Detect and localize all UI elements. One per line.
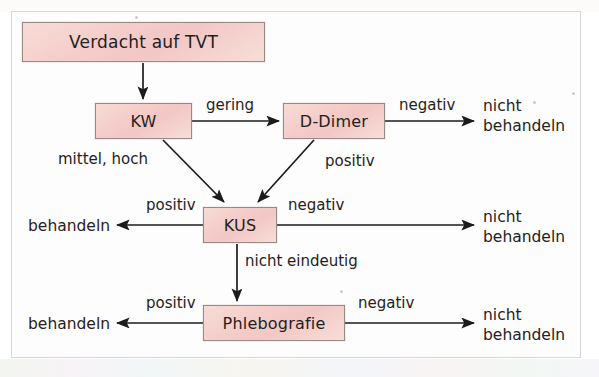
node-phlebografie[interactable]: Phlebografie [203, 305, 345, 341]
diagram-page: Verdacht auf TVT KW D-Dimer KUS Phlebogr… [0, 0, 599, 377]
node-verdacht-label: Verdacht auf TVT [69, 32, 218, 52]
edge-label-gering: gering [206, 96, 254, 115]
scan-speck [135, 16, 138, 19]
edge-label-positiv-phlebografie: positiv [146, 294, 196, 313]
terminal-behandeln-kus: behandeln [28, 217, 110, 237]
edge-label-negativ-phlebografie: negativ [358, 294, 414, 313]
edge-label-positiv-kus: positiv [146, 196, 196, 215]
node-verdacht-auf-tvt[interactable]: Verdacht auf TVT [22, 22, 265, 62]
scan-speck [340, 290, 343, 293]
edge-label-mittel-hoch: mittel, hoch [58, 150, 148, 169]
node-kus[interactable]: KUS [203, 207, 277, 243]
edge-label-nicht-eindeutig: nicht eindeutig [245, 252, 358, 271]
scan-bottom-margin [0, 359, 599, 377]
node-d-dimer[interactable]: D-Dimer [283, 103, 385, 139]
edge-label-negativ-kus: negativ [288, 196, 344, 215]
node-kw[interactable]: KW [95, 103, 192, 139]
terminal-nicht-behandeln-phlebografie: nicht behandeln [483, 306, 565, 346]
scan-speck [572, 92, 575, 95]
scan-speck [533, 101, 536, 104]
terminal-nicht-behandeln-kus: nicht behandeln [483, 208, 565, 248]
edge-label-positiv-ddimer: positiv [325, 152, 375, 171]
terminal-behandeln-phlebografie: behandeln [28, 315, 110, 335]
terminal-nicht-behandeln-ddimer: nicht behandeln [483, 97, 565, 137]
node-d-dimer-label: D-Dimer [300, 112, 368, 131]
edge-label-negativ-ddimer: negativ [399, 96, 455, 115]
node-kus-label: KUS [224, 216, 257, 235]
node-phlebografie-label: Phlebografie [223, 314, 326, 333]
node-kw-label: KW [130, 112, 156, 131]
